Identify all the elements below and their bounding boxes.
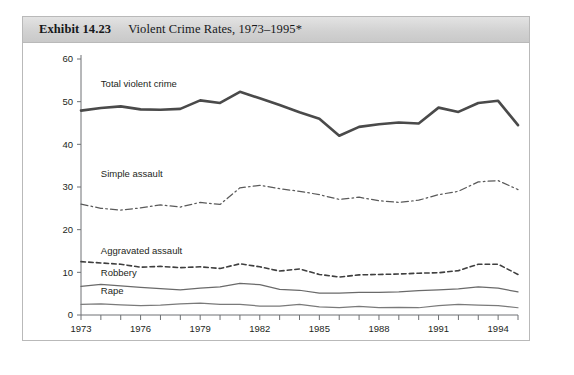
x-axis-ticks: 19731976197919821985198819911994 [70,315,518,334]
x-tick-label: 1979 [190,323,211,334]
x-tick-label: 1982 [249,323,270,334]
chart-plot-area: 0102030405060 19731976197919821985198819… [23,43,529,341]
exhibit-title: Violent Crime Rates, 1973–1995* [128,22,302,37]
series-label-aggravated-assault: Aggravated assault [101,245,183,256]
series-label-simple-assault: Simple assault [101,168,163,179]
exhibit-frame: Exhibit 14.23 Violent Crime Rates, 1973–… [22,16,530,341]
chart-axes [81,55,518,315]
y-tick-label: 20 [62,224,73,235]
y-tick-label: 10 [62,267,73,278]
series-label-robbery: Robbery [101,267,137,278]
series-label-total-violent-crime: Total violent crime [101,78,177,89]
series-line-robbery [81,283,518,293]
y-tick-label: 50 [62,96,73,107]
x-tick-label: 1994 [488,323,509,334]
x-tick-label: 1976 [130,323,151,334]
series-line-total-violent-crime [81,92,518,136]
x-tick-label: 1991 [428,323,449,334]
y-axis-ticks: 0102030405060 [62,53,81,320]
chart-series-group [81,92,518,308]
series-line-simple-assault [81,181,518,210]
series-label-rape: Rape [101,285,124,296]
x-tick-label: 1988 [368,323,389,334]
x-tick-label: 1985 [309,323,330,334]
x-tick-label: 1973 [70,323,91,334]
line-chart: 0102030405060 19731976197919821985198819… [23,43,529,341]
series-line-rape [81,303,518,308]
exhibit-header: Exhibit 14.23 Violent Crime Rates, 1973–… [23,17,529,43]
exhibit-number: Exhibit 14.23 [39,22,111,37]
y-tick-label: 40 [62,139,73,150]
y-tick-label: 30 [62,181,73,192]
series-line-aggravated-assault [81,262,518,277]
y-tick-label: 0 [68,309,73,320]
y-tick-label: 60 [62,53,73,64]
